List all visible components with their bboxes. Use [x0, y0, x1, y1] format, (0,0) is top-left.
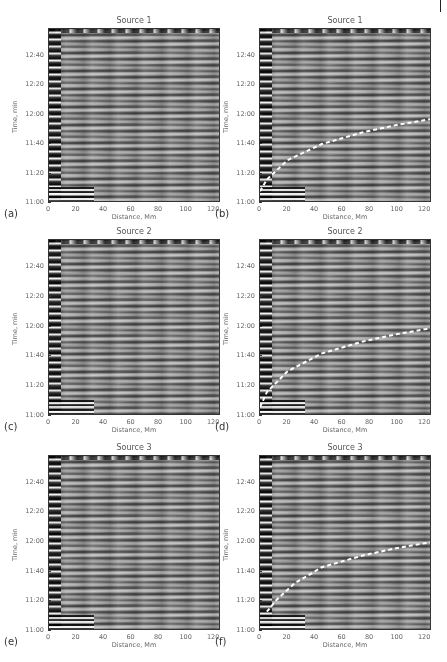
- panel-title: Source 1: [259, 16, 431, 25]
- x-tick-label: 20: [66, 633, 86, 641]
- y-tick-label: 12:00: [229, 110, 255, 118]
- stripe-texture: [49, 456, 219, 629]
- x-tick-label: 20: [277, 418, 297, 426]
- y-tick-label: 11:20: [229, 169, 255, 177]
- y-tick-label: 12:40: [229, 51, 255, 59]
- time-distance-plot: [259, 239, 431, 415]
- x-tick-label: 0: [38, 418, 58, 426]
- high-contrast-strip: [49, 456, 219, 460]
- y-tick-mark: [48, 266, 51, 267]
- y-tick-label: 12:20: [18, 507, 44, 515]
- time-distance-plot: [48, 239, 220, 415]
- y-tick-mark: [259, 114, 262, 115]
- y-tick-label: 11:20: [18, 381, 44, 389]
- x-tick-label: 100: [176, 633, 196, 641]
- panel-letter-label: (f): [215, 636, 226, 647]
- x-tick-label: 100: [387, 205, 407, 213]
- y-tick-mark: [259, 84, 262, 85]
- stripe-texture: [49, 29, 219, 201]
- high-contrast-strip: [49, 187, 94, 201]
- x-tick-label: 80: [148, 418, 168, 426]
- dashed-fit-curve: [260, 456, 431, 630]
- x-tick-label: 0: [38, 205, 58, 213]
- y-tick-label: 12:00: [18, 537, 44, 545]
- y-tick-mark: [259, 482, 262, 483]
- panel-title: Source 3: [48, 443, 220, 452]
- y-tick-mark: [48, 415, 51, 416]
- x-tick-label: 0: [38, 633, 58, 641]
- y-tick-label: 11:40: [229, 567, 255, 575]
- y-tick-label: 11:20: [229, 596, 255, 604]
- y-tick-label: 12:20: [18, 80, 44, 88]
- x-tick-label: 60: [332, 205, 352, 213]
- x-tick-label: 40: [93, 418, 113, 426]
- x-axis-label: Distance, Mm: [48, 426, 220, 434]
- high-contrast-strip: [49, 240, 219, 244]
- y-tick-mark: [259, 173, 262, 174]
- y-tick-mark: [48, 385, 51, 386]
- y-tick-mark: [48, 541, 51, 542]
- y-tick-mark: [48, 173, 51, 174]
- y-tick-mark: [259, 202, 262, 203]
- panel-letter-label: (c): [4, 421, 17, 432]
- y-tick-mark: [48, 143, 51, 144]
- y-tick-mark: [48, 571, 51, 572]
- panel-title: Source 2: [48, 227, 220, 236]
- panel-title: Source 1: [48, 16, 220, 25]
- y-tick-mark: [259, 415, 262, 416]
- y-tick-mark: [48, 55, 51, 56]
- y-tick-mark: [259, 143, 262, 144]
- time-distance-plot: [259, 455, 431, 630]
- y-tick-label: 12:20: [229, 292, 255, 300]
- high-contrast-strip: [49, 29, 219, 33]
- x-tick-label: 60: [121, 633, 141, 641]
- y-tick-label: 12:20: [229, 80, 255, 88]
- x-tick-label: 100: [387, 418, 407, 426]
- y-axis-label: Time, min: [222, 528, 230, 560]
- y-tick-mark: [48, 326, 51, 327]
- x-tick-label: 80: [148, 205, 168, 213]
- x-tick-label: 20: [277, 205, 297, 213]
- x-tick-label: 0: [249, 418, 269, 426]
- y-tick-mark: [48, 511, 51, 512]
- x-tick-label: 80: [359, 633, 379, 641]
- y-tick-mark: [48, 296, 51, 297]
- x-tick-label: 60: [332, 633, 352, 641]
- x-tick-label: 0: [249, 205, 269, 213]
- y-tick-label: 12:00: [229, 322, 255, 330]
- y-tick-mark: [259, 600, 262, 601]
- x-axis-label: Distance, Mm: [48, 641, 220, 649]
- y-tick-mark: [259, 630, 262, 631]
- x-tick-label: 100: [387, 633, 407, 641]
- panel-letter-label: (a): [4, 208, 18, 219]
- page-edge-marker: [440, 0, 441, 12]
- x-tick-label: 80: [148, 633, 168, 641]
- y-tick-label: 12:40: [18, 478, 44, 486]
- dashed-fit-curve: [260, 29, 431, 202]
- x-axis-label: Distance, Mm: [48, 213, 220, 221]
- x-tick-label: 120: [414, 205, 434, 213]
- y-tick-label: 12:00: [18, 110, 44, 118]
- y-tick-label: 12:40: [18, 51, 44, 59]
- y-tick-label: 11:20: [18, 596, 44, 604]
- y-tick-label: 11:40: [18, 351, 44, 359]
- y-tick-label: 11:40: [18, 139, 44, 147]
- y-tick-mark: [48, 114, 51, 115]
- x-tick-label: 60: [121, 205, 141, 213]
- time-distance-plot: [48, 455, 220, 630]
- x-tick-label: 20: [66, 205, 86, 213]
- y-tick-label: 11:20: [18, 169, 44, 177]
- high-contrast-strip: [49, 615, 94, 629]
- x-tick-label: 60: [121, 418, 141, 426]
- y-tick-mark: [48, 600, 51, 601]
- y-tick-label: 12:40: [229, 478, 255, 486]
- x-tick-label: 120: [414, 418, 434, 426]
- panel-letter-label: (b): [215, 208, 229, 219]
- x-tick-label: 20: [277, 633, 297, 641]
- x-tick-label: 0: [249, 633, 269, 641]
- y-axis-label: Time, min: [222, 101, 230, 133]
- y-tick-mark: [259, 296, 262, 297]
- y-axis-label: Time, min: [11, 101, 19, 133]
- y-tick-label: 12:00: [18, 322, 44, 330]
- x-axis-label: Distance, Mm: [259, 641, 431, 649]
